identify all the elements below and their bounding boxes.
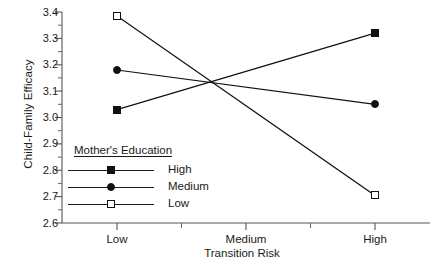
y-axis-title: Child-Family Efficacy bbox=[22, 14, 34, 214]
legend-item-low[interactable]: Low bbox=[68, 196, 238, 213]
figure-chart: 3.4 3.3 3.2 3.1 3.0 2.9 2.8 2.7 2.6 Low … bbox=[0, 0, 436, 274]
legend-title: Mother's Education bbox=[74, 144, 172, 157]
filled-square-icon bbox=[107, 166, 115, 174]
legend-item-medium[interactable]: Medium bbox=[68, 179, 238, 196]
legend-item-label: High bbox=[168, 163, 192, 175]
x-axis-title: Transition Risk bbox=[62, 247, 422, 259]
x-tick-label-low: Low bbox=[77, 233, 157, 245]
x-tick-label-high: High bbox=[335, 233, 415, 245]
legend-item-label: Low bbox=[168, 197, 189, 209]
legend-item-label: Medium bbox=[168, 180, 209, 192]
figure-caption bbox=[0, 266, 436, 274]
legend-item-high[interactable]: High bbox=[68, 162, 238, 179]
open-square-icon bbox=[107, 200, 115, 208]
x-tick-label-medium: Medium bbox=[206, 233, 286, 245]
filled-circle-icon bbox=[107, 183, 115, 191]
legend: Mother's Education High Medium Low bbox=[68, 140, 238, 213]
x-tick-label-group: Low Medium High bbox=[0, 0, 436, 274]
